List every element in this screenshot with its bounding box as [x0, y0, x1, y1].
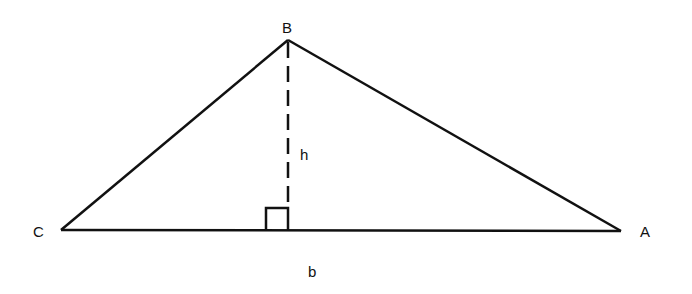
- vertex-label-c: C: [33, 224, 44, 239]
- right-angle-marker: [266, 208, 288, 230]
- side-ba: [288, 40, 621, 231]
- base-ca: [61, 230, 621, 231]
- side-cb: [61, 40, 288, 230]
- base-label: b: [308, 264, 316, 279]
- triangle-diagram: [0, 0, 692, 294]
- height-label: h: [300, 147, 308, 162]
- vertex-label-b: B: [282, 20, 292, 35]
- vertex-label-a: A: [640, 224, 650, 239]
